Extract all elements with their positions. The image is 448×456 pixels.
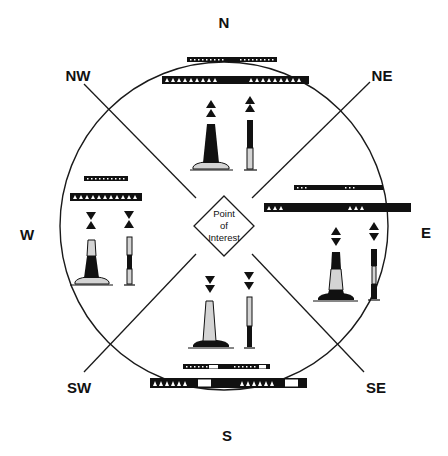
ne-sw-line xyxy=(252,82,370,198)
west-spar-topmark-icon xyxy=(124,211,134,228)
east-light-bar-small xyxy=(294,185,383,190)
south-light-bar-small xyxy=(183,364,270,369)
label-north: N xyxy=(219,14,230,31)
east-spar-buoy-icon xyxy=(368,249,380,300)
east-topmark-icon xyxy=(331,227,341,246)
east-spar-topmark-icon xyxy=(369,222,379,241)
label-east: E xyxy=(421,224,431,241)
north-light-bar-small xyxy=(187,57,277,62)
west-spar-buoy-icon xyxy=(124,237,135,285)
label-southeast: SE xyxy=(366,379,386,396)
east-sector xyxy=(264,185,411,301)
label-west: W xyxy=(20,226,34,243)
west-topmark-icon xyxy=(86,212,96,229)
north-topmark-icon xyxy=(206,100,216,117)
north-spar-buoy-icon xyxy=(244,120,257,170)
south-sector xyxy=(150,272,307,388)
east-buoy-icon xyxy=(313,252,358,301)
nw-se-line-2 xyxy=(252,254,364,372)
ne-sw-line-2 xyxy=(84,254,196,372)
poi-line-2: of xyxy=(194,220,254,232)
east-light-bar-large xyxy=(264,203,411,212)
label-southwest: SW xyxy=(67,379,91,396)
poi-line-1: Point xyxy=(194,208,254,220)
label-south: S xyxy=(222,427,232,444)
south-spar-topmark-icon xyxy=(244,272,254,290)
south-topmark-icon xyxy=(205,276,215,293)
north-spar-topmark-icon xyxy=(245,96,255,112)
north-buoy-icon xyxy=(190,124,233,170)
label-northwest: NW xyxy=(66,67,91,84)
poi-line-3: Interest xyxy=(194,232,254,244)
west-light-bar-small xyxy=(84,176,128,181)
label-northeast: NE xyxy=(372,67,393,84)
west-sector xyxy=(70,176,142,285)
south-buoy-icon xyxy=(188,301,234,348)
point-of-interest-label: Point of Interest xyxy=(194,208,254,244)
south-spar-buoy-icon xyxy=(244,297,255,348)
west-buoy-icon xyxy=(70,240,113,285)
